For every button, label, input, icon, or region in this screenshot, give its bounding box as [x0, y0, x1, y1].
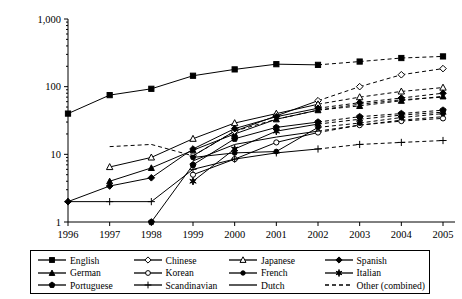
legend-swatch-circle-hollow-icon — [133, 268, 163, 278]
legend-item-dutch[interactable]: Dutch — [228, 280, 324, 290]
legend-grid: EnglishChineseJapaneseSpanishGermanKorea… — [37, 254, 425, 290]
legend-swatch-none-icon — [324, 280, 354, 290]
legend-swatch-circle-filled-icon — [228, 268, 258, 278]
chart-legend: EnglishChineseJapaneseSpanishGermanKorea… — [30, 250, 430, 294]
legend-swatch-plus-icon — [133, 280, 163, 290]
y-tick-label: 10 — [51, 149, 62, 160]
x-tick-label: 2000 — [224, 229, 245, 240]
legend-item-scandinavian[interactable]: Scandinavian — [133, 280, 229, 290]
x-axis: 1996199719981999200020012002200320042005 — [58, 222, 456, 240]
legend-item-english[interactable]: English — [37, 255, 133, 265]
y-tick-label: 100 — [45, 81, 61, 92]
legend-item-other-combined[interactable]: Other (combined) — [324, 280, 425, 290]
legend-label: Scandinavian — [166, 281, 218, 291]
legend-item-portuguese[interactable]: Portuguese — [37, 280, 133, 290]
x-tick-label: 1996 — [58, 229, 79, 240]
series-scandinavian — [64, 137, 446, 205]
legend-item-italian[interactable]: Italian — [324, 268, 425, 278]
x-tick-label: 1999 — [183, 229, 204, 240]
x-tick-label: 1998 — [141, 229, 162, 240]
legend-label: Other (combined) — [357, 281, 425, 291]
legend-swatch-diamond-hollow-icon — [133, 255, 163, 265]
x-tick-label: 2003 — [349, 229, 370, 240]
legend-label: English — [70, 256, 99, 266]
legend-swatch-none-icon — [228, 280, 258, 290]
x-tick-label: 2002 — [308, 229, 329, 240]
x-tick-label: 2001 — [266, 229, 287, 240]
x-tick-label: 2004 — [391, 229, 413, 240]
legend-swatch-triangle-filled-icon — [37, 268, 67, 278]
series-german — [107, 93, 446, 184]
legend-label: Japanese — [261, 256, 295, 266]
legend-item-french[interactable]: French — [228, 268, 324, 278]
y-axis: 1,000100101 — [37, 14, 68, 228]
series-english — [65, 54, 445, 116]
x-tick-label: 2005 — [433, 229, 454, 240]
legend-label: German — [70, 268, 101, 278]
x-tick-label: 1997 — [99, 229, 120, 240]
legend-item-spanish[interactable]: Spanish — [324, 255, 425, 265]
legend-item-japanese[interactable]: Japanese — [228, 255, 324, 265]
legend-label: Portuguese — [70, 281, 113, 291]
legend-label: Chinese — [166, 256, 197, 266]
legend-swatch-triangle-hollow-icon — [228, 255, 258, 265]
legend-label: Dutch — [261, 281, 284, 291]
y-tick-label: 1 — [56, 217, 61, 228]
chart-figure: 1,000100101 1996199719981999200020012002… — [0, 0, 462, 299]
legend-label: Italian — [357, 268, 382, 278]
legend-swatch-square-filled-icon — [37, 255, 67, 265]
series-layer — [64, 54, 446, 225]
legend-label: French — [261, 268, 288, 278]
log-line-chart: 1,000100101 1996199719981999200020012002… — [0, 0, 462, 248]
legend-item-korean[interactable]: Korean — [133, 268, 229, 278]
y-tick-label: 1,000 — [37, 14, 61, 25]
legend-swatch-diamond-filled-icon — [324, 255, 354, 265]
legend-label: Korean — [166, 268, 194, 278]
legend-swatch-pentagon-filled-icon — [37, 280, 67, 290]
legend-label: Spanish — [357, 256, 387, 266]
legend-item-chinese[interactable]: Chinese — [133, 255, 229, 265]
chart-plot-area: 1,000100101 1996199719981999200020012002… — [0, 0, 462, 248]
legend-item-german[interactable]: German — [37, 268, 133, 278]
series-spanish — [65, 90, 447, 205]
legend-swatch-star-filled-icon — [324, 268, 354, 278]
